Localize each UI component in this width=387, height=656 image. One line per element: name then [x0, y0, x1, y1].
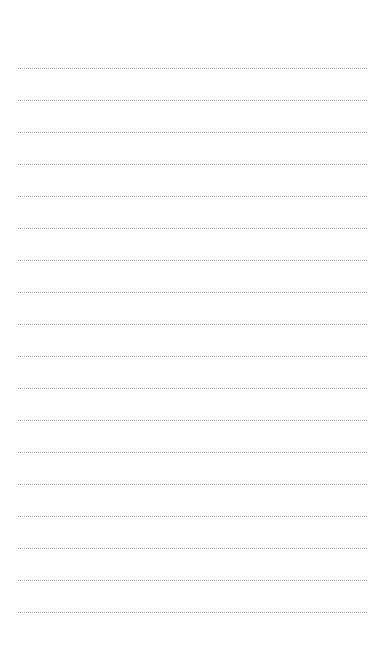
ruled-line — [18, 324, 367, 325]
ruled-line — [18, 420, 367, 421]
ruled-line — [18, 548, 367, 549]
ruled-line — [18, 356, 367, 357]
ruled-line — [18, 452, 367, 453]
ruled-line — [18, 164, 367, 165]
lined-paper-page — [0, 0, 387, 656]
ruled-line — [18, 484, 367, 485]
ruled-line — [18, 516, 367, 517]
ruled-line — [18, 132, 367, 133]
ruled-line — [18, 228, 367, 229]
ruled-line — [18, 100, 367, 101]
ruled-line — [18, 260, 367, 261]
ruled-line — [18, 196, 367, 197]
ruled-line — [18, 580, 367, 581]
ruled-line — [18, 292, 367, 293]
ruled-line — [18, 68, 367, 69]
ruled-line — [18, 612, 367, 613]
ruled-line — [18, 388, 367, 389]
